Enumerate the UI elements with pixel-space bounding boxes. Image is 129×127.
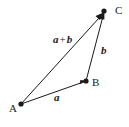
point-dot-a — [18, 101, 23, 106]
vector-label-sum-operator: + — [59, 33, 67, 45]
vector-addition-figure: A B C a+b a b — [0, 0, 129, 127]
vector-sum-line — [21, 18, 99, 104]
point-label-a: A — [9, 103, 17, 114]
point-dot-c — [101, 8, 106, 13]
vector-label-a: a — [54, 92, 60, 103]
vector-label-sum-right: b — [67, 33, 73, 45]
vector-label-sum-left: a — [53, 33, 59, 45]
vector-label-a-plus-b: a+b — [53, 34, 72, 45]
point-label-c: C — [115, 5, 122, 16]
vector-label-b: b — [101, 45, 107, 56]
point-label-b: B — [92, 77, 99, 88]
vector-diagram-canvas — [0, 0, 129, 127]
point-dot-b — [83, 78, 88, 83]
